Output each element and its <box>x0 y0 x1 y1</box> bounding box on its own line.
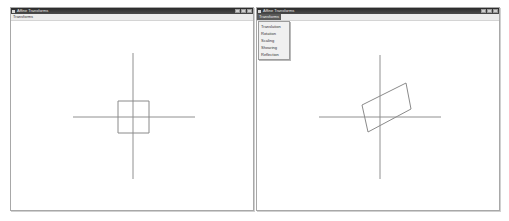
close-button[interactable] <box>247 9 252 13</box>
close-button[interactable] <box>493 9 498 13</box>
menu-item-reflection[interactable]: Reflection <box>259 51 289 58</box>
menu-transforms[interactable]: Transforms <box>11 14 35 20</box>
drawing-canvas[interactable] <box>11 21 253 210</box>
menu-item-translation[interactable]: Translation <box>259 23 289 30</box>
window-title: Affine Transforms <box>263 8 294 14</box>
window-title: Affine Transforms <box>17 8 48 14</box>
window-original: Affine Transforms Transforms <box>10 7 254 211</box>
maximize-button[interactable] <box>487 9 492 13</box>
app-icon <box>12 10 15 13</box>
drawing-canvas[interactable] <box>257 21 499 210</box>
menu-item-scaling[interactable]: Scaling <box>259 37 289 44</box>
title-bar[interactable]: Affine Transforms <box>257 8 499 14</box>
menu-transforms[interactable]: Transforms <box>257 14 281 20</box>
window-transformed: Affine Transforms Transforms Translation… <box>256 7 500 211</box>
transformed-shape <box>362 83 411 132</box>
menu-item-rotation[interactable]: Rotation <box>259 30 289 37</box>
maximize-button[interactable] <box>241 9 246 13</box>
minimize-button[interactable] <box>481 9 486 13</box>
minimize-button[interactable] <box>235 9 240 13</box>
menu-item-shearing[interactable]: Shearing <box>259 44 289 51</box>
title-bar[interactable]: Affine Transforms <box>11 8 253 14</box>
menu-bar: Transforms <box>257 14 499 21</box>
app-icon <box>258 10 261 13</box>
transforms-dropdown: Translation Rotation Scaling Shearing Re… <box>258 21 290 60</box>
menu-bar: Transforms <box>11 14 253 21</box>
